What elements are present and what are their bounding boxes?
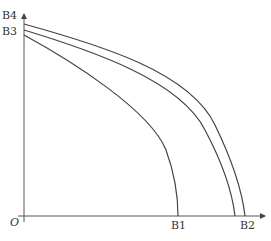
label-b4: B4	[2, 9, 17, 22]
label-origin: O	[10, 216, 19, 229]
label-b1: B1	[171, 219, 186, 232]
label-b2: B2	[240, 219, 255, 232]
curve-outer	[24, 24, 245, 216]
curve-inner	[24, 35, 178, 216]
diagram-canvas: B4 B3 O B1 B2	[0, 0, 271, 241]
label-b3: B3	[2, 25, 17, 38]
